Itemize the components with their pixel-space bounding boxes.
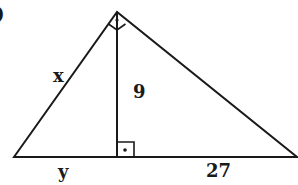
label-27: 27 <box>206 160 231 181</box>
triangle-diagram: ) x 9 y 27 <box>0 0 298 185</box>
apex-right-angle-dot <box>115 18 118 21</box>
foot-right-angle-mark <box>117 142 134 157</box>
label-x: x <box>53 65 64 86</box>
foot-right-angle-dot <box>123 148 127 152</box>
label-y: y <box>57 161 69 182</box>
problem-marker: ) <box>0 3 5 24</box>
label-9: 9 <box>133 81 146 102</box>
